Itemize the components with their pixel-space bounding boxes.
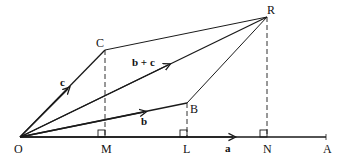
label-N: N: [263, 142, 272, 156]
vector-b: [20, 103, 187, 137]
vector-diagram: O C R B M L N A c b + c b a: [0, 0, 340, 156]
label-R: R: [267, 3, 275, 17]
right-angle-marker-M: [98, 130, 105, 137]
label-vector-b-plus-c: b + c: [132, 56, 155, 68]
label-vector-c: c: [60, 76, 65, 88]
right-angle-marker-L: [180, 130, 187, 137]
label-M: M: [101, 142, 112, 156]
label-vector-a: a: [225, 142, 231, 154]
segment-CR: [105, 17, 267, 50]
right-angle-marker-N: [260, 130, 267, 137]
label-C: C: [96, 36, 104, 50]
label-B: B: [190, 102, 198, 116]
vector-a: [20, 134, 326, 140]
label-vector-b: b: [141, 115, 147, 127]
label-A: A: [323, 142, 332, 156]
label-O: O: [14, 142, 23, 156]
vector-c: [20, 50, 105, 137]
label-L: L: [183, 142, 190, 156]
segment-BR: [187, 17, 267, 103]
